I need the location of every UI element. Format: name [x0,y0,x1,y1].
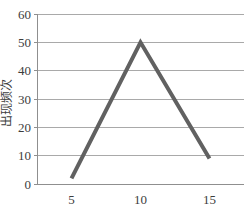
y-tick-label: 20 [18,120,31,135]
x-tick-label: 15 [203,192,216,207]
data-line [72,42,210,178]
x-tick-label: 10 [134,192,147,207]
y-tick-label: 10 [18,148,31,163]
y-tick-label: 30 [18,92,31,107]
chart-canvas: 010203040506051015出现频次 [0,0,248,216]
y-tick-label: 50 [18,35,31,50]
line-chart-figure: 010203040506051015出现频次 [0,0,248,216]
y-axis-title: 出现频次 [0,79,14,127]
x-tick-label: 5 [68,192,75,207]
y-tick-label: 40 [18,63,31,78]
y-tick-label: 0 [25,177,32,192]
y-tick-label: 60 [18,7,31,22]
